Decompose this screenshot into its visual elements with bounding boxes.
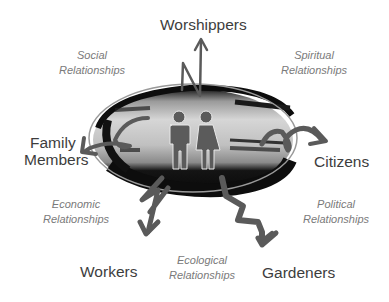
role-family-line1: Family — [30, 134, 76, 151]
relationship-spiritual-line2: Relationships — [274, 63, 354, 78]
role-workers: Workers — [80, 263, 137, 280]
relationship-political-line2: Relationships — [296, 212, 376, 227]
relationship-spiritual-line1: Spiritual — [274, 48, 354, 63]
role-citizens: Citizens — [314, 153, 369, 170]
relationship-political-line1: Political — [296, 197, 376, 212]
relationship-economic: Economic Relationships — [36, 197, 116, 227]
relationship-ecological-line1: Ecological — [162, 253, 242, 268]
relationship-ecological-line2: Relationships — [162, 268, 242, 283]
role-gardeners: Gardeners — [262, 264, 335, 281]
role-family-line2: Members — [24, 151, 89, 168]
relationship-social: Social Relationships — [52, 48, 132, 78]
relationship-social-line1: Social — [52, 48, 132, 63]
relationship-economic-line1: Economic — [36, 197, 116, 212]
relationship-spiritual: Spiritual Relationships — [274, 48, 354, 78]
relationship-social-line2: Relationships — [52, 63, 132, 78]
relationship-ecological: Ecological Relationships — [162, 253, 242, 283]
role-worshippers: Worshippers — [160, 16, 247, 33]
relationship-political: Political Relationships — [296, 197, 376, 227]
relationship-economic-line2: Relationships — [36, 212, 116, 227]
